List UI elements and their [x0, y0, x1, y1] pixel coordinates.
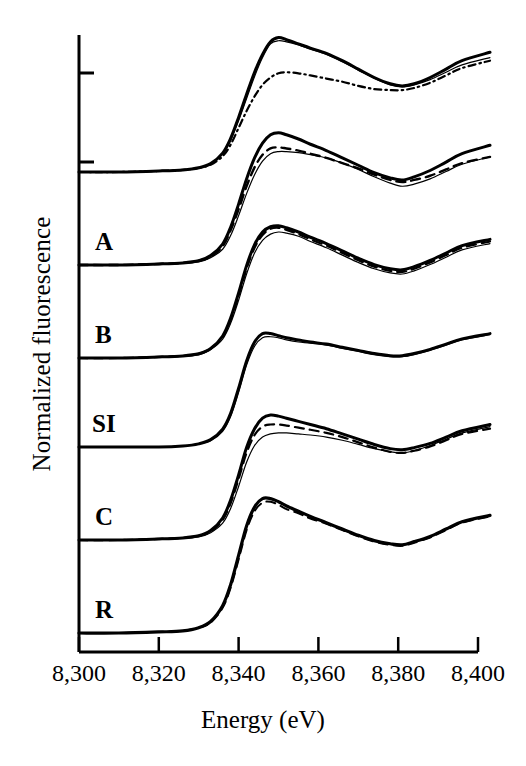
x-tick-label-8300: 8,300	[52, 660, 106, 687]
x-axis-label: Energy (eV)	[0, 706, 526, 734]
axis-layer	[79, 35, 478, 652]
y-axis-label: Normalized fluorescence	[28, 184, 56, 504]
curve-R-solid-thick	[79, 498, 490, 633]
x-axis-ticks	[79, 637, 478, 652]
xanes-figure: Normalized fluorescence Energy (eV) 8,30…	[0, 0, 526, 766]
curve-label-b: B	[95, 321, 112, 349]
x-tick-label-8340: 8,340	[212, 660, 266, 687]
curve-label-c: C	[95, 503, 113, 531]
curve-A-dashed	[79, 147, 490, 265]
x-tick-label-8360: 8,360	[291, 660, 345, 687]
curves-layer	[79, 38, 490, 634]
curve-label-a: A	[95, 228, 113, 256]
curve-top-solid-thin	[79, 41, 490, 172]
curve-label-r: R	[95, 596, 113, 624]
curve-SI-solid-thin	[79, 335, 490, 447]
curve-R-dashed	[79, 502, 490, 634]
curve-label-si: SI	[92, 410, 116, 438]
x-tick-label-8380: 8,380	[371, 660, 425, 687]
curve-SI-solid-thick	[79, 333, 490, 447]
y-axis-ticks	[79, 73, 94, 162]
curve-A-solid-thin	[79, 151, 490, 265]
curve-C-solid-thick	[79, 415, 490, 540]
curve-C-dashed	[79, 424, 490, 540]
curve-A-solid-thick	[79, 133, 490, 265]
x-tick-label-8400: 8,400	[451, 660, 505, 687]
x-tick-label-8320: 8,320	[132, 660, 186, 687]
plot-canvas	[0, 0, 526, 766]
